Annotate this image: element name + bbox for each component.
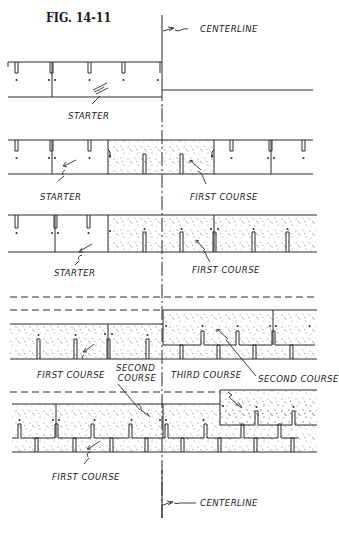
leader-arrow-icon — [58, 160, 76, 181]
step4-third-course-label: THIRD COURSE — [171, 369, 242, 380]
figure-canvas: FIG. 14-11 CENTERLINE STARTER STARTER FI… — [0, 0, 339, 533]
step2-first-course-label: FIRST COURSE — [190, 191, 258, 202]
second-course-line2: COURSE — [118, 373, 156, 383]
step5-row — [10, 390, 317, 452]
step3-first-course-label: FIRST COURSE — [192, 264, 260, 275]
leader-arrow-icon — [163, 27, 188, 31]
step1-starter-strip — [8, 62, 313, 97]
step3-starter-label: STARTER — [54, 267, 95, 278]
step2-row — [8, 140, 313, 174]
leader-arrow-icon — [75, 244, 92, 265]
step4-second-course-label-left: SECOND COURSE — [116, 363, 156, 383]
step1-starter-label: STARTER — [68, 110, 109, 121]
centerline-label-top: CENTERLINE — [200, 23, 258, 34]
step2-starter-label: STARTER — [40, 191, 81, 202]
step4-row — [10, 297, 317, 359]
step4-first-course-label: FIRST COURSE — [37, 369, 105, 380]
step4-second-course-label-right: SECOND COURSE — [258, 373, 339, 384]
leader-arrow-icon — [92, 83, 108, 104]
figure-title: FIG. 14-11 — [46, 10, 111, 25]
step3-row — [8, 215, 317, 252]
step5-first-course-label: FIRST COURSE — [52, 471, 120, 482]
nail-marks — [16, 79, 160, 81]
leader-arrow-icon — [163, 501, 196, 505]
shingle-diagram — [0, 0, 339, 533]
centerline-label-bottom: CENTERLINE — [200, 497, 258, 508]
